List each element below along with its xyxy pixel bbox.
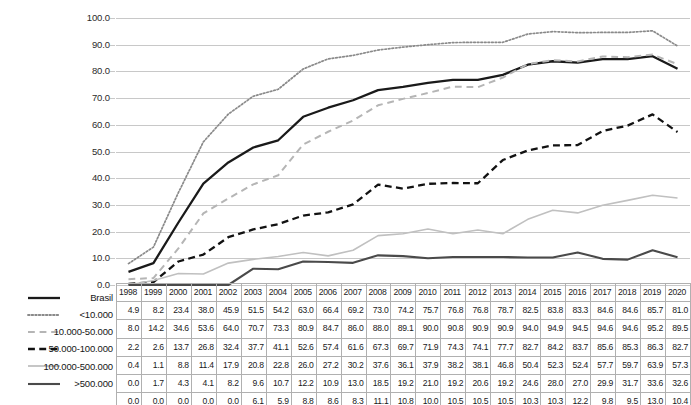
table-cell: 86.0 [341,320,366,338]
table-cell: 90.0 [416,320,441,338]
table-cell: 90.8 [441,320,466,338]
table-cell: 94.6 [591,320,616,338]
legend-item[interactable]: <10.000 [0,306,116,323]
series-line [128,114,677,284]
legend-item[interactable]: >500.000 [0,375,116,392]
table-cell: 38.2 [441,356,466,374]
table-cell: 57.4 [316,338,341,356]
table-cell: 71.9 [416,338,441,356]
table-cell: 0.0 [117,375,142,393]
table-cell: 83.3 [566,302,591,320]
table-cell: 53.6 [191,320,216,338]
table-cell: 37.9 [416,356,441,374]
legend-swatch-icon [27,379,61,389]
table-row: 2.22.613.726.832.437.741.152.657.461.667… [117,338,691,356]
table-cell: 78.7 [491,302,516,320]
table-cell: 85.7 [641,302,666,320]
table-cell: 74.1 [466,338,491,356]
y-axis-tick-label: 50.0 [62,147,110,157]
table-column-header: 2012 [466,284,491,302]
table-cell: 69.7 [391,338,416,356]
table-cell: 38.0 [191,302,216,320]
legend-item[interactable]: 100.000-500.000 [0,358,116,375]
table-cell: 86.3 [641,338,666,356]
table-column-header: 2008 [366,284,391,302]
table-cell: 64.0 [216,320,241,338]
y-axis-tick-label: 80.0 [62,67,110,77]
table-cell: 8.2 [141,302,166,320]
table-cell: 1.7 [141,375,166,393]
table-cell: 26.8 [191,338,216,356]
table-cell: 13.0 [341,375,366,393]
table-cell: 27.0 [566,375,591,393]
table-cell: 32.4 [216,338,241,356]
y-axis-tick-label: 60.0 [62,120,110,130]
table-column-header: 2019 [641,284,666,302]
table-header-row: 1998199920002001200220032004200520062007… [117,284,691,302]
legend-item[interactable]: Brasil [0,289,116,306]
table-row: 8.014.234.653.664.070.773.380.984.786.08… [117,320,691,338]
table-cell: 90.9 [491,320,516,338]
table-cell: 82.7 [665,338,690,356]
table-cell: 89.5 [665,320,690,338]
y-axis-tick-label: 20.0 [62,227,110,237]
table-cell: 28.0 [541,375,566,393]
table-cell: 9.6 [241,375,266,393]
legend-item-label: <10.000 [79,310,113,320]
table-cell: 95.2 [641,320,666,338]
legend-item[interactable]: 10.000-50.000 [0,323,116,340]
legend-swatch-icon [27,293,61,303]
table-cell: 63.0 [291,302,316,320]
legend: Brasil<10.00010.000-50.00050.000-100.000… [0,288,116,394]
y-axis-tick-label: 40.0 [62,173,110,183]
table-column-header: 2003 [241,284,266,302]
table-cell: 94.9 [541,320,566,338]
table-cell: 20.6 [466,375,491,393]
table-column-header: 2010 [416,284,441,302]
table-row: 0.01.74.34.18.29.610.712.210.913.018.519… [117,375,691,393]
table-column-header: 2011 [441,284,466,302]
legend-item[interactable]: 50.000-100.000 [0,341,116,358]
table-cell: 84.7 [316,320,341,338]
table-cell: 52.4 [566,356,591,374]
table-cell: 94.5 [566,320,591,338]
table-cell: 31.7 [616,375,641,393]
table-cell: 18.5 [366,375,391,393]
table-cell: 38.1 [466,356,491,374]
table-cell: 94.0 [516,320,541,338]
table-cell: 59.7 [616,356,641,374]
table-cell: 52.3 [541,356,566,374]
table-cell: 10.9 [316,375,341,393]
y-axis-tick-label: 10.0 [62,254,110,264]
table-cell: 74.3 [441,338,466,356]
table-cell: 57.7 [591,356,616,374]
table-cell: 12.2 [291,375,316,393]
table-cell: 27.2 [316,356,341,374]
legend-item-label: 10.000-50.000 [54,327,113,337]
plot-area: 0.010.020.030.040.050.060.070.080.090.01… [0,0,691,288]
legend-swatch-icon [27,310,61,320]
table-cell: 76.8 [466,302,491,320]
table-column-header: 1998 [117,284,142,302]
table-cell: 29.9 [591,375,616,393]
table-cell: 36.1 [391,356,416,374]
table-cell: 54.2 [266,302,291,320]
table-cell: 81.0 [665,302,690,320]
table-cell: 19.2 [391,375,416,393]
legend-item-label: Brasil [90,293,113,303]
series-line [128,56,677,272]
table-cell: 67.3 [366,338,391,356]
series-lines [116,0,690,288]
table-row: 0.41.18.811.417.920.822.826.027.230.237.… [117,356,691,374]
table-cell: 4.1 [191,375,216,393]
table-column-header: 2009 [391,284,416,302]
table-cell: 75.7 [416,302,441,320]
data-table: 1998199920002001200220032004200520062007… [116,283,691,405]
table-cell: 41.1 [266,338,291,356]
y-axis-tick-label: 100.0 [62,13,110,23]
table-cell: 0.4 [117,356,142,374]
series-line [128,195,677,285]
table-cell: 34.6 [166,320,191,338]
series-line [128,31,677,264]
table-cell: 57.3 [665,356,690,374]
